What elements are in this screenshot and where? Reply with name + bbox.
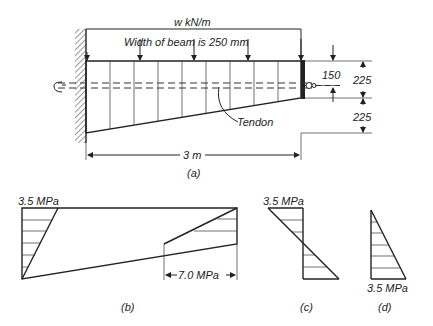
figure-b: 3.5 MPa 7.0 MPa (b) — [18, 195, 237, 313]
width-note: Width of beam is 250 mm — [124, 36, 249, 48]
hatch-lines-d — [371, 222, 400, 268]
load-label: w kN/m — [174, 16, 211, 28]
stress-label-c: 3.5 MPa — [263, 195, 304, 207]
span-dimension: 3 m — [86, 133, 301, 161]
tendon-label: Tendon — [237, 116, 273, 128]
anchor-nut-icon — [306, 83, 312, 89]
figure-c: 3.5 MPa (c) — [263, 195, 339, 313]
hatch-lines-b-right — [194, 219, 237, 231]
caption-c: (c) — [300, 301, 313, 313]
end-anchor-plate — [301, 60, 305, 99]
depth-dimensions: 150 225 225 — [301, 45, 372, 133]
caption-a: (a) — [187, 167, 201, 179]
span-label: 3 m — [183, 149, 201, 161]
depth-lower-label: 225 — [352, 111, 372, 123]
bottom-stress-label-b: 7.0 MPa — [178, 269, 219, 281]
caption-b: (b) — [121, 301, 135, 313]
fixed-support-wall — [75, 29, 86, 143]
depth-upper-label: 225 — [352, 74, 372, 86]
top-stress-label-b: 3.5 MPa — [18, 195, 59, 207]
caption-d: (d) — [378, 301, 392, 313]
figure-a: w kN/m Width of beam is 250 mm Tendo — [54, 16, 372, 179]
hatch-lines-b-left — [22, 220, 52, 267]
prestressed-beam-diagram: w kN/m Width of beam is 250 mm Tendo — [0, 0, 433, 326]
tendon — [54, 82, 340, 92]
stress-label-d: 3.5 MPa — [367, 282, 408, 294]
figure-d: 3.5 MPa (d) — [367, 210, 408, 313]
eccentricity-label: 150 — [322, 69, 341, 81]
